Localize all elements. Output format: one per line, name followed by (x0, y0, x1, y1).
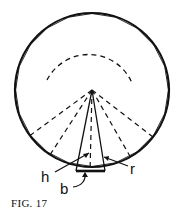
figure-caption: FIG. 17 (11, 197, 48, 209)
h-leader (55, 153, 89, 172)
label-r: r (130, 160, 135, 177)
b-arrowhead-icon (82, 172, 88, 177)
polygon-circle-diagram: h b r FIG. 17 (0, 0, 177, 212)
dashed-rotation-arc (47, 55, 132, 83)
label-b: b (60, 180, 68, 197)
label-h: h (41, 168, 49, 185)
